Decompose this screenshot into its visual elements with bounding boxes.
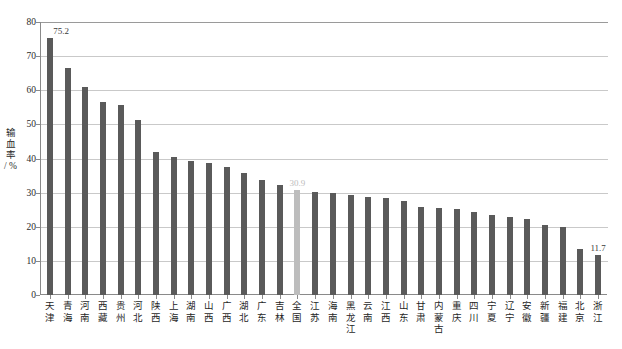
bar — [348, 195, 354, 295]
x-tick-label: 浙江 — [590, 301, 606, 324]
y-tick-label: 20 — [10, 222, 36, 232]
x-tick-label: 天津 — [42, 301, 58, 324]
x-axis-labels: 天津青海河南西藏贵州河北陕西上海湖南山西广西湖北广东吉林全国江苏海南黑龙江云南江… — [41, 301, 607, 349]
bar — [241, 173, 247, 295]
bar-slot — [324, 22, 342, 295]
x-tick-label: 云南 — [360, 301, 376, 324]
bar-slot: 30.9 — [289, 22, 307, 295]
bar-slot — [183, 22, 201, 295]
bar-series: 75.230.911.7 — [41, 22, 607, 295]
x-tick-mark — [103, 295, 104, 299]
bar — [577, 249, 583, 295]
bar-slot — [306, 22, 324, 295]
x-tick-label: 上海 — [166, 301, 182, 324]
bar — [383, 198, 389, 295]
x-tick-mark — [545, 295, 546, 299]
x-tick-mark — [50, 295, 51, 299]
x-tick-label: 陕西 — [148, 301, 164, 324]
bar — [507, 217, 513, 295]
bar — [401, 201, 407, 295]
bar-highlight — [294, 190, 300, 295]
x-tick-label: 全国 — [289, 301, 305, 324]
y-tick-label: 0 — [10, 290, 36, 300]
bar — [100, 102, 106, 295]
x-tick-mark — [351, 295, 352, 299]
bar-slot — [430, 22, 448, 295]
bar-slot — [271, 22, 289, 295]
y-tick-label: 40 — [10, 154, 36, 164]
bar — [330, 193, 336, 295]
bar — [65, 68, 71, 295]
x-tick-label: 甘肃 — [413, 301, 429, 324]
x-tick-label: 新疆 — [537, 301, 553, 324]
bar-slot — [483, 22, 501, 295]
bar — [436, 208, 442, 295]
x-tick-label: 贵州 — [113, 301, 129, 324]
x-tick-label: 江西 — [378, 301, 394, 324]
y-tick-label: 30 — [10, 188, 36, 198]
bar — [259, 180, 265, 295]
x-tick-label: 宁夏 — [484, 301, 500, 324]
x-tick-label: 重庆 — [449, 301, 465, 324]
bar-slot — [501, 22, 519, 295]
bar — [47, 38, 53, 295]
x-tick-label: 湖南 — [183, 301, 199, 324]
x-tick-label: 湖北 — [236, 301, 252, 324]
bar-slot — [165, 22, 183, 295]
x-tick-label: 青海 — [60, 301, 76, 324]
x-tick-mark — [227, 295, 228, 299]
bar-slot — [129, 22, 147, 295]
bar-slot — [554, 22, 572, 295]
x-tick-label: 黑龙江 — [343, 301, 359, 336]
x-tick-label: 西藏 — [95, 301, 111, 324]
bar — [153, 152, 159, 295]
bar-slot — [94, 22, 112, 295]
bar-slot — [395, 22, 413, 295]
bar-chart: 输血率 / % 01020304050607080 75.230.911.7 天… — [0, 0, 622, 349]
bar — [560, 227, 566, 295]
bar — [277, 185, 283, 295]
x-tick-mark — [492, 295, 493, 299]
x-tick-label: 河南 — [77, 301, 93, 324]
y-tick-label: 50 — [10, 119, 36, 129]
x-tick-label: 安徽 — [519, 301, 535, 324]
x-tick-label: 北京 — [572, 301, 588, 324]
x-tick-mark — [191, 295, 192, 299]
bar — [454, 209, 460, 295]
x-tick-label: 四川 — [466, 301, 482, 324]
y-tick-label: 70 — [10, 51, 36, 61]
bar-slot — [359, 22, 377, 295]
x-tick-mark — [138, 295, 139, 299]
x-tick-label: 山西 — [201, 301, 217, 324]
x-tick-mark — [280, 295, 281, 299]
x-tick-mark — [156, 295, 157, 299]
x-tick-mark — [457, 295, 458, 299]
x-tick-label: 广东 — [254, 301, 270, 324]
bar-slot — [412, 22, 430, 295]
bar — [418, 207, 424, 295]
bar-slot — [572, 22, 590, 295]
bar-slot — [112, 22, 130, 295]
x-tick-mark — [421, 295, 422, 299]
bar-slot — [218, 22, 236, 295]
bar-value-label: 30.9 — [290, 178, 306, 188]
x-tick-mark — [598, 295, 599, 299]
x-tick-mark — [368, 295, 369, 299]
bar-value-label: 11.7 — [590, 243, 605, 253]
y-tick-label: 80 — [10, 17, 36, 27]
bar — [82, 87, 88, 295]
bar-slot — [342, 22, 360, 295]
x-tick-mark — [580, 295, 581, 299]
x-axis-ticks — [41, 295, 607, 299]
x-tick-mark — [297, 295, 298, 299]
bar — [135, 120, 141, 295]
x-tick-mark — [121, 295, 122, 299]
bar — [312, 192, 318, 295]
bar — [524, 219, 530, 295]
x-tick-label: 海南 — [325, 301, 341, 324]
x-tick-label: 吉林 — [272, 301, 288, 324]
bar-slot — [59, 22, 77, 295]
y-tick-label: 10 — [10, 256, 36, 266]
bar — [595, 255, 601, 295]
bar — [365, 197, 371, 295]
